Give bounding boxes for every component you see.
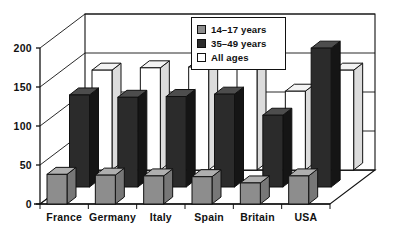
chart-legend: 14–17 years 35–49 years All ages	[191, 17, 286, 70]
bar-chart: 200150100500 FranceGermanyItalySpainBrit…	[0, 0, 396, 235]
y-axis-tick-label: 0	[2, 198, 32, 210]
white-swatch	[197, 53, 206, 62]
y-axis-tick-label: 100	[2, 120, 32, 132]
bar	[263, 108, 292, 187]
gray-swatch	[197, 25, 206, 34]
legend-item: All ages	[197, 51, 280, 64]
bar	[144, 169, 173, 204]
x-axis-tick-label: USA	[278, 211, 334, 223]
y-axis-tick-label: 150	[2, 81, 32, 93]
legend-item: 35–49 years	[197, 37, 280, 50]
bar	[192, 170, 221, 204]
y-axis-tick-label: 200	[2, 42, 32, 54]
bar	[311, 41, 340, 187]
bar	[47, 167, 76, 204]
y-axis-tick-label: 50	[2, 159, 32, 171]
bar	[95, 168, 124, 204]
legend-item: 14–17 years	[197, 23, 280, 36]
legend-item-label: 35–49 years	[211, 39, 267, 49]
bar	[240, 176, 269, 204]
legend-item-label: All ages	[211, 53, 249, 63]
legend-item-label: 14–17 years	[211, 25, 267, 35]
dark-swatch	[197, 39, 206, 48]
bar	[289, 169, 318, 204]
